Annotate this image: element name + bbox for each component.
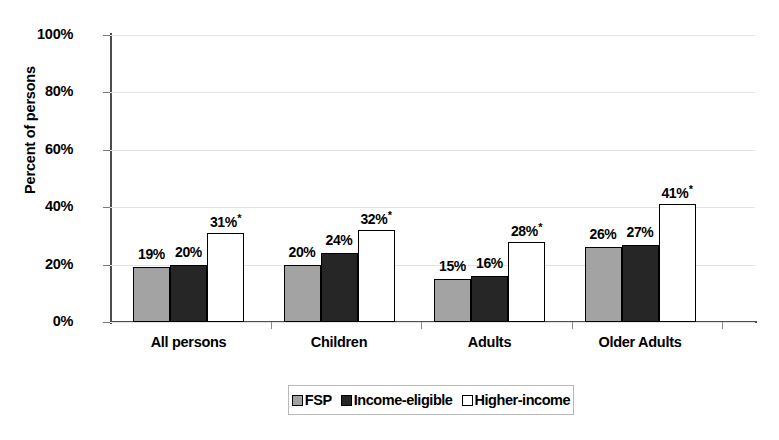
bar: [133, 267, 170, 322]
y-axis-tick: [103, 322, 110, 323]
chart-legend: FSPIncome-eligibleHigher-income: [288, 385, 574, 415]
bar: [284, 265, 321, 322]
bar-value-label: 19%: [138, 246, 165, 262]
bar: [358, 230, 395, 322]
y-axis-tick: [103, 92, 110, 93]
legend-label: Income-eligible: [354, 392, 453, 408]
gridline: [110, 92, 755, 93]
bar-value-label: 31%*: [210, 212, 241, 230]
x-axis-separator-tick: [572, 322, 573, 329]
bar: [585, 247, 622, 322]
significance-marker: *: [388, 209, 392, 221]
gridline: [110, 35, 755, 36]
legend-swatch: [341, 395, 352, 406]
bar-chart: Percent of persons 0%20%40%60%80%100%19%…: [0, 0, 779, 440]
significance-marker: *: [538, 221, 542, 233]
bar-value-label: 28%*: [511, 221, 542, 239]
legend-item: Income-eligible: [341, 392, 453, 408]
x-axis-separator-tick: [421, 322, 422, 329]
bar-value-label: 24%: [326, 232, 353, 248]
y-axis-tick: [103, 35, 110, 36]
bar-value-label: 16%: [476, 255, 503, 271]
y-axis-title: Percent of persons: [22, 40, 38, 220]
significance-marker: *: [689, 183, 693, 195]
y-axis-tick-label: 100%: [0, 26, 73, 42]
bar-value-label: 41%*: [661, 183, 692, 201]
bar: [207, 233, 244, 322]
bar-value-label: 20%: [289, 244, 316, 260]
bar-value-label: 32%*: [360, 209, 391, 227]
gridline: [110, 322, 755, 323]
bar-value-label: 20%: [175, 244, 202, 260]
legend-swatch: [292, 395, 303, 406]
x-axis-category-label: Adults: [468, 334, 511, 350]
bar-value-label: 15%: [439, 258, 466, 274]
bar: [170, 265, 207, 322]
bar: [659, 204, 696, 322]
x-axis-category-label: Older Adults: [599, 334, 682, 350]
y-axis-tick-label: 60%: [0, 141, 73, 157]
y-axis-tick-label: 40%: [0, 198, 73, 214]
y-axis-tick-label: 0%: [0, 313, 73, 329]
bar: [622, 245, 659, 322]
bar: [471, 276, 508, 322]
x-axis-category-label: All persons: [151, 334, 227, 350]
bar: [434, 279, 471, 322]
y-axis-tick: [103, 207, 110, 208]
bar: [508, 242, 545, 322]
legend-item: Higher-income: [462, 392, 571, 408]
legend-item: FSP: [292, 392, 332, 408]
x-axis-separator-tick: [722, 322, 723, 329]
x-axis-separator-tick: [271, 322, 272, 329]
y-axis-tick: [103, 150, 110, 151]
plot-area: 0%20%40%60%80%100%19%20%31%*20%24%32%*15…: [110, 35, 755, 322]
y-axis-tick-label: 80%: [0, 83, 73, 99]
legend-label: FSP: [305, 392, 332, 408]
y-axis-tick: [103, 265, 110, 266]
significance-marker: *: [237, 212, 241, 224]
x-axis-category-label: Children: [311, 334, 367, 350]
legend-swatch: [462, 395, 473, 406]
legend-label: Higher-income: [475, 392, 571, 408]
gridline: [110, 150, 755, 151]
bar-value-label: 27%: [627, 224, 654, 240]
bar: [321, 253, 358, 322]
y-axis-tick-label: 20%: [0, 256, 73, 272]
bar-value-label: 26%: [590, 226, 617, 242]
